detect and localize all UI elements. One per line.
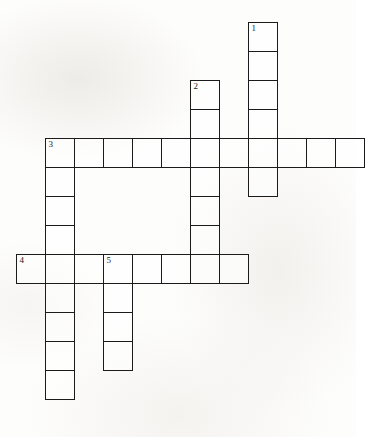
- crossword-cell[interactable]: [103, 341, 133, 371]
- page-footer-mark: [168, 424, 182, 436]
- crossword-cell[interactable]: [45, 370, 75, 400]
- crossword-cell[interactable]: [103, 312, 133, 342]
- crossword-cell[interactable]: [74, 138, 104, 168]
- crossword-cell[interactable]: [45, 196, 75, 226]
- crossword-cell[interactable]: [190, 138, 220, 168]
- crossword-cell[interactable]: [248, 167, 278, 197]
- crossword-cell[interactable]: [74, 254, 104, 284]
- clue-number-3: 3: [49, 139, 54, 150]
- crossword-cell[interactable]: [45, 312, 75, 342]
- clue-number-4: 4: [20, 255, 25, 266]
- clue-number-2: 2: [194, 81, 199, 92]
- crossword-cell[interactable]: [190, 225, 220, 255]
- crossword-cell[interactable]: [190, 254, 220, 284]
- crossword-cell[interactable]: 2: [190, 80, 220, 110]
- crossword-cell[interactable]: [306, 138, 336, 168]
- crossword-cell[interactable]: 5: [103, 254, 133, 284]
- crossword-cell[interactable]: [45, 167, 75, 197]
- crossword-cell[interactable]: [190, 109, 220, 139]
- crossword-cell[interactable]: [161, 254, 191, 284]
- crossword-cell[interactable]: [248, 138, 278, 168]
- clue-number-5: 5: [107, 255, 112, 266]
- crossword-cell[interactable]: [132, 138, 162, 168]
- crossword-cell[interactable]: 4: [16, 254, 46, 284]
- crossword-cell[interactable]: [248, 109, 278, 139]
- clue-number-1: 1: [252, 23, 257, 34]
- crossword-cell[interactable]: [103, 138, 133, 168]
- crossword-cell[interactable]: [277, 138, 307, 168]
- crossword-cell[interactable]: [335, 138, 365, 168]
- crossword-cell[interactable]: [45, 254, 75, 284]
- crossword-cell[interactable]: [103, 283, 133, 313]
- crossword-cell[interactable]: [161, 138, 191, 168]
- crossword-cell[interactable]: [190, 167, 220, 197]
- crossword-cell[interactable]: [248, 80, 278, 110]
- crossword-cell[interactable]: [45, 341, 75, 371]
- crossword-cell[interactable]: 3: [45, 138, 75, 168]
- crossword-cell[interactable]: [190, 196, 220, 226]
- crossword-cell[interactable]: [45, 283, 75, 313]
- crossword-cell[interactable]: 1: [248, 22, 278, 52]
- crossword-cell[interactable]: [132, 254, 162, 284]
- crossword-cell[interactable]: [248, 51, 278, 81]
- crossword-cell[interactable]: [219, 254, 249, 284]
- crossword-cell[interactable]: [45, 225, 75, 255]
- crossword-cell[interactable]: [219, 138, 249, 168]
